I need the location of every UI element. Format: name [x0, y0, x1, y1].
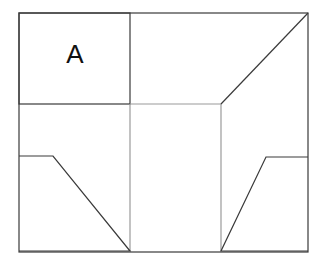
figure-background — [0, 0, 328, 268]
line-drawing-figure: A — [0, 0, 328, 268]
figure-canvas: A — [0, 0, 328, 268]
room-a-label: A — [66, 39, 84, 69]
